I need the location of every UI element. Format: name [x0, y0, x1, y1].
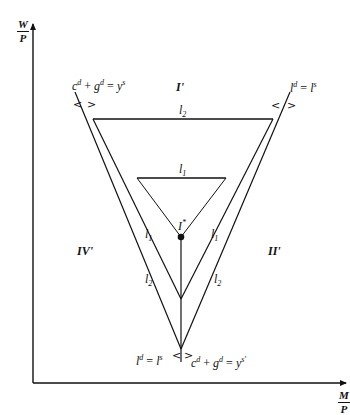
l2-left-label: l2: [145, 273, 152, 285]
equilibrium-label: I*: [178, 220, 186, 232]
subscript: 2: [217, 279, 221, 288]
y-axis-label-denominator: P: [17, 32, 29, 44]
labor-market-line-right: [181, 92, 290, 349]
l-superscript: d: [139, 353, 143, 362]
subscript: 1: [214, 234, 218, 243]
l-superscript: d: [293, 80, 297, 89]
labor-market-label-right: ld = ls: [290, 82, 317, 94]
equals-sign: =: [226, 356, 233, 370]
l1-left-slant: [93, 119, 181, 299]
subscript: 2: [182, 110, 186, 119]
x-axis-label-denominator: P: [338, 403, 350, 415]
subscript: 1: [182, 169, 186, 178]
inner-right-to-equilibrium: [181, 178, 226, 237]
region-label-II: II': [268, 244, 281, 259]
y-axis-label: W P: [17, 19, 29, 44]
g-superscript: d: [100, 78, 104, 87]
subscript: 1: [148, 234, 152, 243]
goods-market-line-left: [75, 92, 181, 349]
inequality-greater-right: >: [287, 99, 296, 112]
g-superscript: d: [219, 355, 223, 364]
plus-sign: +: [84, 79, 91, 93]
inequality-greater-left: >: [87, 98, 96, 111]
plus-sign: +: [203, 356, 210, 370]
region-label-I: I': [176, 80, 184, 95]
y-superscript: s': [241, 355, 246, 364]
l2-top-label: l2: [179, 104, 186, 116]
inequality-less-right: <: [271, 99, 280, 112]
l-superscript: s: [313, 80, 316, 89]
l1-right-label: l1: [211, 228, 218, 240]
x-axis-label-numerator: M: [338, 390, 350, 403]
l-superscript: s: [159, 353, 162, 362]
labor-market-label-bottom: ld = ls: [136, 355, 163, 367]
inequality-less-bottom: <: [172, 349, 181, 362]
inner-left-to-equilibrium: [137, 178, 181, 237]
inequality-less-left: <: [73, 98, 82, 111]
l1-top-label: l1: [179, 163, 186, 175]
equals-sign: =: [107, 79, 114, 93]
region-label-IV: IV': [77, 244, 93, 259]
equals-sign: =: [146, 354, 153, 368]
subscript: 2: [148, 279, 152, 288]
goods-market-label-left: cd + gd = ys: [72, 80, 125, 92]
c-superscript: d: [77, 78, 81, 87]
y-axis-label-numerator: W: [17, 19, 29, 32]
x-axis-label: M P: [338, 390, 350, 415]
equals-sign: =: [300, 81, 307, 95]
y-superscript: s: [122, 78, 125, 87]
l1-left-label: l1: [145, 228, 152, 240]
star-superscript: *: [182, 218, 186, 227]
l1-right-slant: [181, 119, 273, 299]
c-superscript: d: [196, 355, 200, 364]
equilibrium-point: [178, 234, 185, 241]
goods-market-label-bottom: cd + gd = ys': [191, 357, 246, 369]
l2-right-label: l2: [214, 273, 221, 285]
